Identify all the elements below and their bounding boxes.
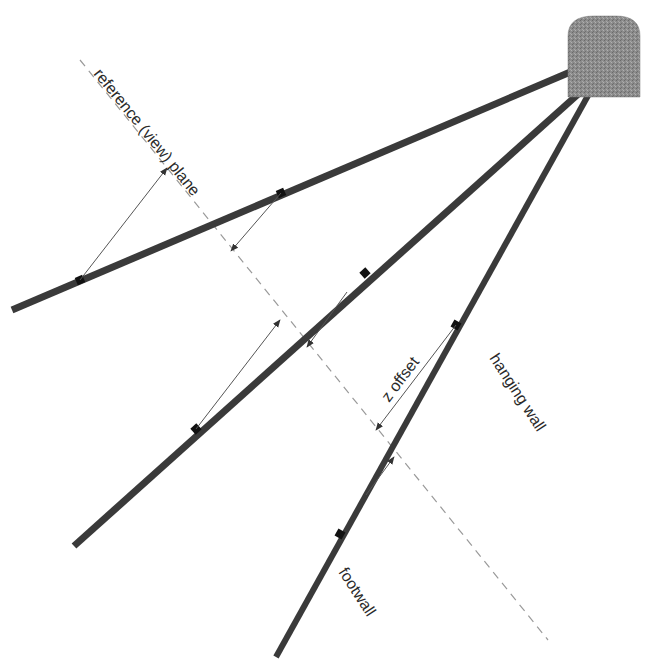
z-offset-arrow bbox=[376, 325, 456, 430]
footwall-label: footwall bbox=[335, 564, 379, 619]
offset-arrows bbox=[80, 168, 456, 495]
offset-arrow bbox=[307, 292, 347, 347]
reference-plane-label: reference (view) plane bbox=[91, 65, 204, 199]
collar-icon bbox=[568, 16, 640, 97]
drillhole-middle bbox=[74, 88, 585, 546]
drillhole-projection-diagram: reference (view) plane z offset hanging … bbox=[0, 0, 652, 668]
offset-arrow bbox=[231, 193, 281, 251]
z-offset-label: z offset bbox=[378, 353, 423, 405]
offset-arrow bbox=[366, 457, 394, 495]
hanging-wall-label: hanging wall bbox=[486, 350, 549, 434]
